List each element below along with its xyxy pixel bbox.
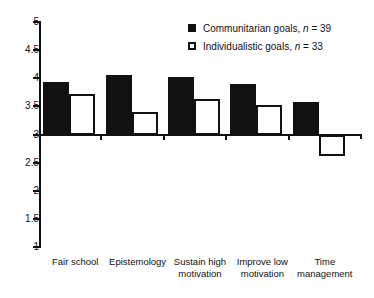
category-tick [163, 136, 165, 140]
bar-communitarian [168, 77, 194, 135]
y-tick-label: 2.5 [11, 158, 39, 168]
bar-individualistic [256, 105, 282, 135]
y-tick-label: 3.5 [11, 101, 39, 111]
y-tick-label: 5 [11, 17, 39, 27]
legend-label: Communitarian goals, n = 39 [203, 23, 331, 34]
legend-open-square-icon [188, 42, 196, 50]
bar-communitarian [293, 102, 319, 134]
chart-legend: Communitarian goals, n = 39Individualist… [188, 19, 331, 55]
y-tick-label: 4.5 [11, 45, 39, 55]
y-tick-label: 2 [11, 186, 39, 196]
bar-communitarian [43, 82, 69, 134]
y-tick-label: 1 [11, 242, 39, 252]
legend-filled-square-icon [188, 24, 196, 32]
legend-item: Individualistic goals, n = 33 [188, 37, 331, 55]
category-tick [225, 136, 227, 140]
bar-individualistic [132, 112, 158, 135]
y-tick-label: 4 [11, 73, 39, 83]
legend-item: Communitarian goals, n = 39 [188, 19, 331, 37]
baseline-end-cap [360, 134, 362, 139]
legend-label: Individualistic goals, n = 33 [203, 41, 323, 52]
bar-communitarian [106, 75, 132, 134]
bar-individualistic [194, 99, 220, 134]
bar-individualistic [69, 94, 95, 135]
bar-communitarian [230, 84, 256, 135]
bar-chart: 54.543.532.521.51 Fair schoolEpistemolog… [0, 0, 374, 298]
y-tick-label: 3 [11, 130, 39, 140]
category-label: Timemanagement [288, 256, 362, 279]
category-tick [100, 136, 102, 140]
category-tick [288, 136, 290, 140]
y-tick-label: 1.5 [11, 214, 39, 224]
bar-individualistic [319, 135, 345, 156]
